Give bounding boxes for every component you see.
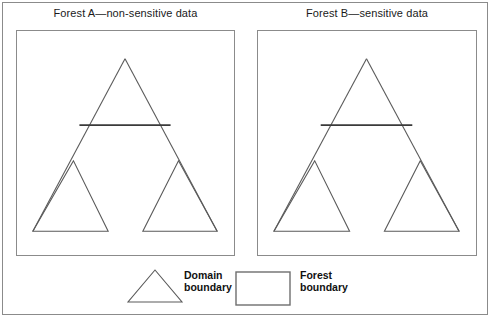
forest-boundary-b xyxy=(257,30,477,256)
legend-symbols xyxy=(16,262,477,314)
root-triangle-left-edge xyxy=(274,59,367,231)
forest-boundary-a xyxy=(16,30,235,256)
legend-label-domain-line2: boundary xyxy=(184,282,232,294)
legend-triangle-icon xyxy=(128,270,182,302)
panel-title-forest-a: Forest A—non-sensitive data xyxy=(16,7,235,19)
child-domain-right xyxy=(384,161,459,231)
panel-title-forest-b: Forest B—sensitive data xyxy=(257,7,477,19)
child-domain-right xyxy=(143,161,217,231)
figure-canvas: Forest A—non-sensitive data Forest B—sen… xyxy=(0,0,497,322)
legend-label-domain-line1: Domain xyxy=(184,270,232,282)
legend: Domain boundary Forest boundary xyxy=(16,262,477,314)
legend-label-forest-line2: boundary xyxy=(300,282,348,294)
child-domain-left xyxy=(274,161,350,231)
domain-tree-b xyxy=(258,31,476,255)
legend-label-forest-boundary: Forest boundary xyxy=(300,270,348,293)
legend-rectangle-icon xyxy=(236,272,290,305)
legend-label-forest-line1: Forest xyxy=(300,270,348,282)
domain-tree-a xyxy=(17,31,234,255)
root-triangle-left-edge xyxy=(33,59,125,231)
child-domain-left xyxy=(33,161,108,231)
legend-label-domain-boundary: Domain boundary xyxy=(184,270,232,293)
